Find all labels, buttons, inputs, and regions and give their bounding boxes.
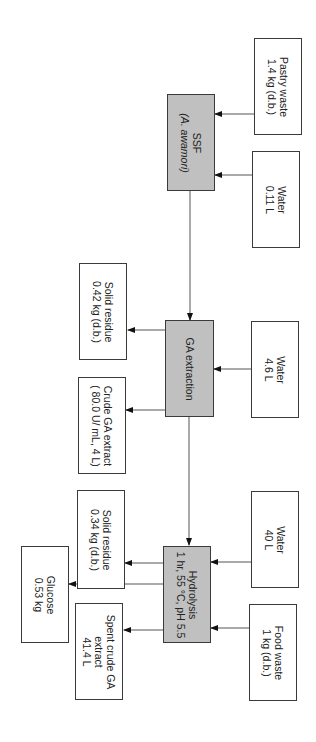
process-ssf: SSF(A. awamori) bbox=[167, 94, 215, 191]
glucose-label: Glucose bbox=[45, 575, 57, 614]
food-waste-label: Food waste bbox=[273, 625, 285, 679]
ssf-label: SSF bbox=[191, 113, 203, 173]
output-spent-crude-ga: Spent crude GAextract41.4 L bbox=[75, 603, 123, 700]
water-hyd-label: Water bbox=[275, 526, 287, 554]
solid-residue-2-label: Solid residue bbox=[101, 509, 113, 571]
solid-residue-1-amount: 0.42 kg (d.b.) bbox=[91, 281, 103, 343]
food-waste-amount: 1 kg (d.b.) bbox=[261, 625, 273, 679]
spent-crude-label-2: extract bbox=[93, 614, 105, 689]
hydrolysis-label: Hydrolysis bbox=[187, 551, 199, 638]
spent-crude-amount: 41.4 L bbox=[81, 614, 93, 689]
solid-residue-2-amount: 0.34 kg (d.b.) bbox=[89, 509, 101, 571]
input-pastry-waste: Pastry waste1.4 kg (d.b.) bbox=[254, 38, 302, 135]
process-ga-extraction: GA extraction bbox=[165, 320, 214, 417]
water-ssf-label: Water bbox=[276, 185, 288, 213]
solid-residue-1-label: Solid residue bbox=[103, 281, 115, 343]
process-hydrolysis: Hydrolysis1 hr, 55 °C, pH 5.5 bbox=[163, 546, 211, 643]
hydrolysis-conditions: 1 hr, 55 °C, pH 5.5 bbox=[175, 551, 187, 638]
water-ext-amount: 4.6 L bbox=[263, 356, 275, 384]
crude-ga-label: Crude GA extract bbox=[102, 385, 114, 467]
output-solid-residue-2: Solid residue0.34 kg (d.b.) bbox=[77, 490, 125, 589]
output-glucose: Glucose0.53 kg bbox=[21, 546, 69, 643]
glucose-amount: 0.53 kg bbox=[33, 575, 45, 614]
output-crude-ga-extract: Crude GA extract( 80.0 U/ mL, 4 L) bbox=[78, 377, 126, 474]
spent-crude-label: Spent crude GA bbox=[105, 614, 117, 689]
ssf-organism: (A. awamori) bbox=[179, 113, 191, 173]
pastry-waste-label: Pastry waste bbox=[278, 56, 290, 116]
input-water-hydrolysis: Water40 L bbox=[251, 491, 299, 588]
input-water-extraction: Water4.6 L bbox=[251, 321, 299, 418]
input-food-waste: Food waste1 kg (d.b.) bbox=[249, 604, 297, 701]
input-water-ssf: Water0.11 L bbox=[252, 151, 300, 248]
pastry-waste-amount: 1.4 kg (d.b.) bbox=[266, 56, 278, 116]
water-ssf-amount: 0.11 L bbox=[264, 185, 276, 213]
water-hyd-amount: 40 L bbox=[263, 526, 275, 554]
crude-ga-amount: ( 80.0 U/ mL, 4 L) bbox=[90, 385, 102, 467]
water-ext-label: Water bbox=[275, 356, 287, 384]
ga-extraction-label: GA extraction bbox=[184, 337, 196, 400]
output-solid-residue-1: Solid residue0.42 kg (d.b.) bbox=[79, 263, 127, 360]
